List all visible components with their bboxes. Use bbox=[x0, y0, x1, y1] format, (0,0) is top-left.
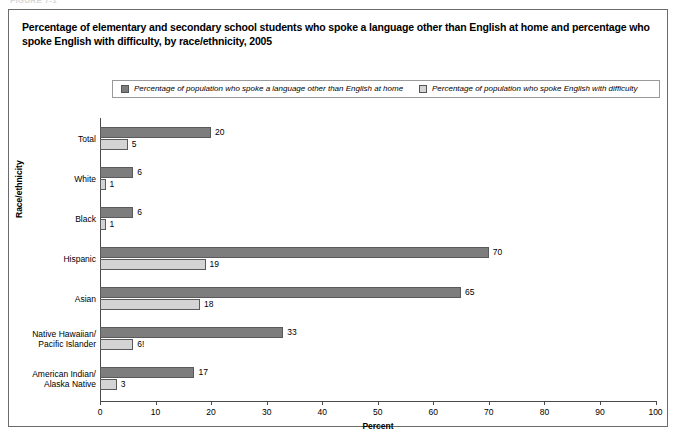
page-title: Percentage of elementary and secondary s… bbox=[22, 20, 652, 48]
x-axis-tick bbox=[489, 401, 490, 405]
category-label: Total bbox=[1, 134, 96, 144]
bar-value-label: 3 bbox=[121, 379, 126, 390]
bar-value-label: 6 bbox=[137, 167, 142, 178]
bar-value-label: 18 bbox=[204, 299, 213, 310]
category-label-line: Black bbox=[1, 214, 96, 224]
x-axis-tick bbox=[378, 401, 379, 405]
bar-language-other bbox=[100, 367, 194, 378]
category-label: Black bbox=[1, 214, 96, 224]
x-axis-tick-label: 40 bbox=[317, 407, 326, 417]
bar-value-label: 5 bbox=[132, 139, 137, 150]
dark-swatch-icon bbox=[121, 85, 129, 93]
legend-item-label: Percentage of population who spoke Engli… bbox=[432, 84, 637, 94]
x-axis-tick bbox=[211, 401, 212, 405]
category-label-line: Native Hawaiian/ bbox=[1, 329, 96, 339]
bar-language-other bbox=[100, 207, 133, 218]
light-swatch-icon bbox=[419, 85, 427, 93]
bar-value-label: 17 bbox=[198, 367, 207, 378]
x-axis-tick-label: 60 bbox=[429, 407, 438, 417]
bar-english-difficulty bbox=[100, 339, 133, 350]
chart-legend: Percentage of population who spoke a lan… bbox=[112, 80, 660, 98]
category-label-line: White bbox=[1, 174, 96, 184]
bar-language-other bbox=[100, 247, 489, 258]
x-axis-tick-label: 30 bbox=[262, 407, 271, 417]
bar-english-difficulty bbox=[100, 259, 206, 270]
x-axis-tick-label: 10 bbox=[151, 407, 160, 417]
x-axis-tick-label: 20 bbox=[206, 407, 215, 417]
legend-item-english-with-difficulty: Percentage of population who spoke Engli… bbox=[419, 84, 637, 94]
category-label: Asian bbox=[1, 294, 96, 304]
x-axis-tick bbox=[544, 401, 545, 405]
x-axis-tick bbox=[600, 401, 601, 405]
y-axis-tick-labels: TotalWhiteBlackHispanicAsianNative Hawai… bbox=[0, 118, 96, 402]
category-label-line: American Indian/ bbox=[1, 369, 96, 379]
category-label: White bbox=[1, 174, 96, 184]
bar-value-label: 6 bbox=[137, 207, 142, 218]
bar-english-difficulty bbox=[100, 219, 106, 230]
x-axis-tick-label: 0 bbox=[98, 407, 103, 417]
bar-value-label: 1 bbox=[110, 179, 115, 190]
figure-tag: FIGURE 7-1 bbox=[10, 0, 57, 5]
x-axis-tick bbox=[433, 401, 434, 405]
x-axis-tick-label: 80 bbox=[540, 407, 549, 417]
bar-value-label: 20 bbox=[215, 127, 224, 138]
category-label-line: Hispanic bbox=[1, 254, 96, 264]
x-axis-tick-label: 70 bbox=[484, 407, 493, 417]
bar-language-other bbox=[100, 167, 133, 178]
legend-item-language-other-than-english: Percentage of population who spoke a lan… bbox=[121, 84, 403, 94]
bar-english-difficulty bbox=[100, 179, 106, 190]
x-axis-tick bbox=[100, 401, 101, 405]
x-axis-tick-label: 100 bbox=[648, 407, 662, 417]
bar-value-label: 6! bbox=[137, 339, 144, 350]
category-label-line: Total bbox=[1, 134, 96, 144]
category-label: Hispanic bbox=[1, 254, 96, 264]
bar-value-label: 19 bbox=[210, 259, 219, 270]
x-axis-tick bbox=[322, 401, 323, 405]
bar-value-label: 70 bbox=[493, 247, 502, 258]
category-label: American Indian/Alaska Native bbox=[1, 369, 96, 389]
bar-language-other bbox=[100, 327, 283, 338]
x-axis-tick-label: 50 bbox=[373, 407, 382, 417]
bar-value-label: 1 bbox=[110, 219, 115, 230]
x-axis-tick bbox=[267, 401, 268, 405]
category-label-line: Asian bbox=[1, 294, 96, 304]
bar-english-difficulty bbox=[100, 299, 200, 310]
category-label-line: Pacific Islander bbox=[1, 339, 96, 349]
bar-language-other bbox=[100, 287, 461, 298]
bar-language-other bbox=[100, 127, 211, 138]
category-label: Native Hawaiian/Pacific Islander bbox=[1, 329, 96, 349]
bar-english-difficulty bbox=[100, 139, 128, 150]
bar-value-label: 33 bbox=[287, 327, 296, 338]
legend-item-label: Percentage of population who spoke a lan… bbox=[134, 84, 403, 94]
x-axis-tick bbox=[656, 401, 657, 405]
x-axis-title: Percent bbox=[100, 421, 656, 431]
plot-area: 205616170196518336!173 bbox=[100, 118, 656, 402]
category-label-line: Alaska Native bbox=[1, 379, 96, 389]
bar-english-difficulty bbox=[100, 379, 117, 390]
x-axis-tick bbox=[156, 401, 157, 405]
bar-value-label: 65 bbox=[465, 287, 474, 298]
x-axis-tick-label: 90 bbox=[595, 407, 604, 417]
